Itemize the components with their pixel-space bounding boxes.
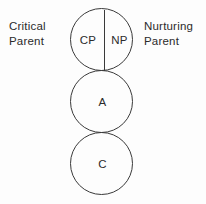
adult-circle-label: A xyxy=(71,96,134,109)
child-circle-label: C xyxy=(71,158,134,171)
critical-parent-label: Critical Parent xyxy=(9,19,67,49)
np-segment-label: NP xyxy=(105,34,134,47)
cp-segment-label: CP xyxy=(73,34,103,47)
adult-ego-state-circle: A xyxy=(70,70,133,133)
child-ego-state-circle: C xyxy=(70,132,133,195)
nurturing-parent-label: Nurturing Parent xyxy=(144,19,206,49)
ego-state-diagram: Critical Parent Nurturing Parent CP NP A… xyxy=(0,0,206,204)
parent-ego-state-circle: CP NP xyxy=(70,8,133,71)
